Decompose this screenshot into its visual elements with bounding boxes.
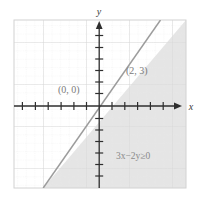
inequality-label: 3x−2y≥0: [116, 151, 151, 161]
solution-point-label: (2, 3): [126, 65, 148, 77]
inequality-graph-figure: x y (0, 0) (2, 3) 3x−2y≥0: [0, 0, 204, 199]
x-axis-label: x: [188, 101, 194, 112]
origin-point-label: (0, 0): [58, 84, 80, 96]
y-axis-label: y: [96, 6, 102, 17]
coordinate-plane-svg: x y (0, 0) (2, 3) 3x−2y≥0: [0, 0, 204, 199]
grid: [14, 20, 186, 188]
